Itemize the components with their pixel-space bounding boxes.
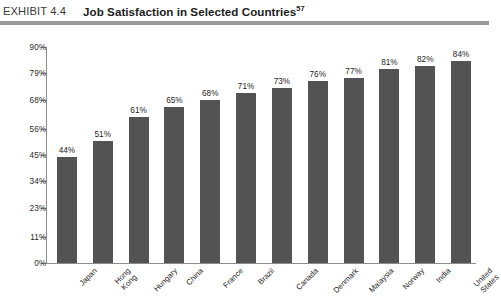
y-axis-tick-label: 45% (8, 151, 46, 160)
bar-group: 71% (225, 47, 261, 263)
y-axis-tick-label: 0% (8, 259, 46, 268)
bar (200, 100, 220, 263)
bar-group: 68% (189, 47, 225, 263)
bar (272, 88, 292, 263)
y-axis-tick-label: 34% (8, 177, 46, 186)
exhibit-number-label: EXHIBIT 4.4 (3, 5, 66, 17)
y-axis-tick-label: 90% (8, 43, 46, 52)
bar-value-label: 65% (166, 96, 182, 105)
exhibit-header: EXHIBIT 4.4 Job Satisfaction in Selected… (0, 0, 489, 22)
y-axis-tick-label: 56% (8, 124, 46, 133)
bar-value-label: 82% (417, 55, 433, 64)
bar (57, 157, 77, 263)
bar (93, 141, 113, 263)
x-axis-category-label: Japan (78, 267, 99, 288)
bar-value-label: 61% (130, 106, 146, 115)
x-axis-category-label: China (185, 267, 206, 288)
page-title: Job Satisfaction in Selected Countries57 (83, 4, 305, 18)
bar (451, 61, 471, 263)
footnote-superscript: 57 (296, 4, 304, 13)
bar (415, 66, 435, 263)
bar-value-label: 44% (59, 146, 75, 155)
bar-value-label: 73% (274, 77, 290, 86)
x-axis-category-label: United States (473, 267, 501, 295)
bar (236, 93, 256, 263)
bar-group: 73% (261, 47, 297, 263)
bar-value-label: 81% (381, 58, 397, 67)
bar-value-label: 84% (453, 50, 469, 59)
bar-value-label: 77% (345, 67, 361, 76)
bar-group: 51% (82, 47, 118, 263)
x-axis-category-label: Hong Kong (113, 267, 139, 293)
x-axis-category-label: Malaysia (368, 267, 396, 295)
bar-value-label: 51% (95, 130, 111, 139)
y-axis-tick-label: 23% (8, 203, 46, 212)
x-axis-category-label: Brazil (257, 267, 277, 287)
bar-group: 61% (118, 47, 154, 263)
x-axis-category-label: Norway (402, 267, 427, 292)
bar-group: 82% (404, 47, 440, 263)
bar-value-label: 71% (238, 82, 254, 91)
bar (344, 78, 364, 263)
x-axis-category-label: India (435, 267, 453, 285)
bar-group: 65% (154, 47, 190, 263)
bar (129, 117, 149, 263)
x-axis-line (46, 263, 476, 264)
bar (308, 81, 328, 263)
bar-group: 76% (297, 47, 333, 263)
bar-value-label: 68% (202, 89, 218, 98)
page-title-text: Job Satisfaction in Selected Countries (83, 5, 296, 18)
bar-chart: 0%11%23%34%45%56%68%79%90% 44%51%61%65%6… (0, 25, 489, 286)
bar-group: 77% (333, 47, 369, 263)
bar-group: 81% (369, 47, 405, 263)
bar-group: 84% (440, 47, 476, 263)
y-axis-tick-label: 68% (8, 95, 46, 104)
x-axis-category-label: Denmark (332, 267, 361, 296)
y-axis-tick-label: 79% (8, 69, 46, 78)
x-axis-category-label: France (222, 267, 245, 290)
bar-value-label: 76% (310, 70, 326, 79)
bar-group: 44% (46, 47, 82, 263)
x-axis-category-label: Canada (295, 267, 320, 292)
x-axis-category-label: Hungary (152, 267, 179, 294)
bar (164, 107, 184, 263)
plot-area: 44%51%61%65%68%71%73%76%77%81%82%84% (46, 47, 476, 263)
y-axis-tick-label: 11% (8, 232, 46, 241)
bar (379, 69, 399, 263)
